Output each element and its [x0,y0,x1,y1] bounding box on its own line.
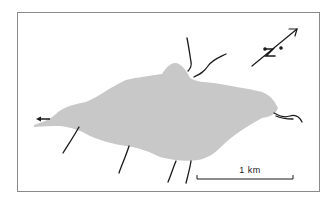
scale-bar-label: 1 km [230,165,270,175]
stream-north-2 [194,54,226,77]
scale-bar [197,175,293,179]
stream-south-1 [119,146,129,173]
map-canvas [0,0,334,204]
lake-shape [34,63,278,161]
north-arrow-icon [252,29,297,66]
stream-southwest [63,127,79,153]
stream-north-1 [187,38,191,71]
stream-south-3 [186,161,191,183]
stream-south-2 [168,161,176,182]
